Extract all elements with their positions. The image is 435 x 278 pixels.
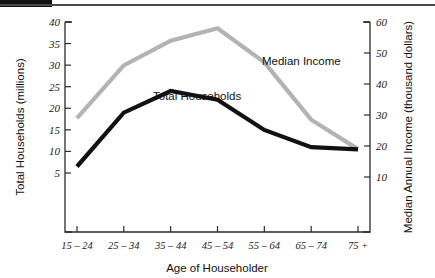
left-tick-label: 20 — [49, 102, 61, 114]
x-category-label: 75 + — [348, 240, 368, 251]
series-line-total-households — [77, 91, 358, 167]
x-category-label: 45 – 54 — [202, 240, 234, 251]
series-annotation-median-income: Median Income — [262, 55, 341, 67]
left-axis-tick-labels: 510152025303540 — [48, 16, 61, 179]
left-tick-label: 10 — [49, 145, 61, 157]
x-axis-ticks — [77, 226, 358, 232]
right-axis-tick-labels: 102030405060 — [375, 16, 388, 183]
left-tick-label: 25 — [49, 81, 61, 93]
line-chart: 510152025303540 102030405060 15 – 2425 –… — [0, 10, 435, 278]
x-category-label: 25 – 34 — [108, 240, 140, 251]
left-tick-label: 5 — [55, 167, 61, 179]
right-tick-label: 40 — [376, 78, 388, 90]
header-rule — [0, 4, 435, 6]
left-axis-ticks — [65, 22, 71, 173]
right-tick-label: 60 — [376, 16, 388, 28]
chart-container: 510152025303540 102030405060 15 – 2425 –… — [0, 10, 435, 278]
left-tick-label: 15 — [49, 124, 61, 136]
left-tick-label: 30 — [48, 59, 61, 71]
left-axis-spine — [65, 22, 72, 232]
right-tick-label: 10 — [376, 171, 388, 183]
x-axis-category-labels: 15 – 2425 – 3435 – 4445 – 5455 – 6465 – … — [61, 240, 368, 251]
x-category-label: 35 – 44 — [154, 240, 187, 251]
series-line-median-income — [77, 28, 358, 149]
right-axis-ticks — [364, 22, 370, 177]
series-annotation-total-households: Total Households — [153, 90, 241, 102]
x-category-label: 55 – 64 — [249, 240, 281, 251]
right-tick-label: 30 — [375, 109, 388, 121]
right-tick-label: 20 — [376, 140, 388, 152]
right-tick-label: 50 — [376, 47, 388, 59]
x-category-label: 65 – 74 — [295, 240, 327, 251]
chart-screenshot: 510152025303540 102030405060 15 – 2425 –… — [0, 0, 435, 278]
left-tick-label: 35 — [48, 38, 61, 50]
left-tick-label: 40 — [49, 16, 61, 28]
x-category-label: 15 – 24 — [61, 240, 93, 251]
right-axis-title: Median Annual Income (thousand dollars) — [402, 21, 414, 233]
x-axis-title: Age of Householder — [166, 262, 268, 274]
left-axis-title: Total Households (millions) — [14, 58, 26, 196]
